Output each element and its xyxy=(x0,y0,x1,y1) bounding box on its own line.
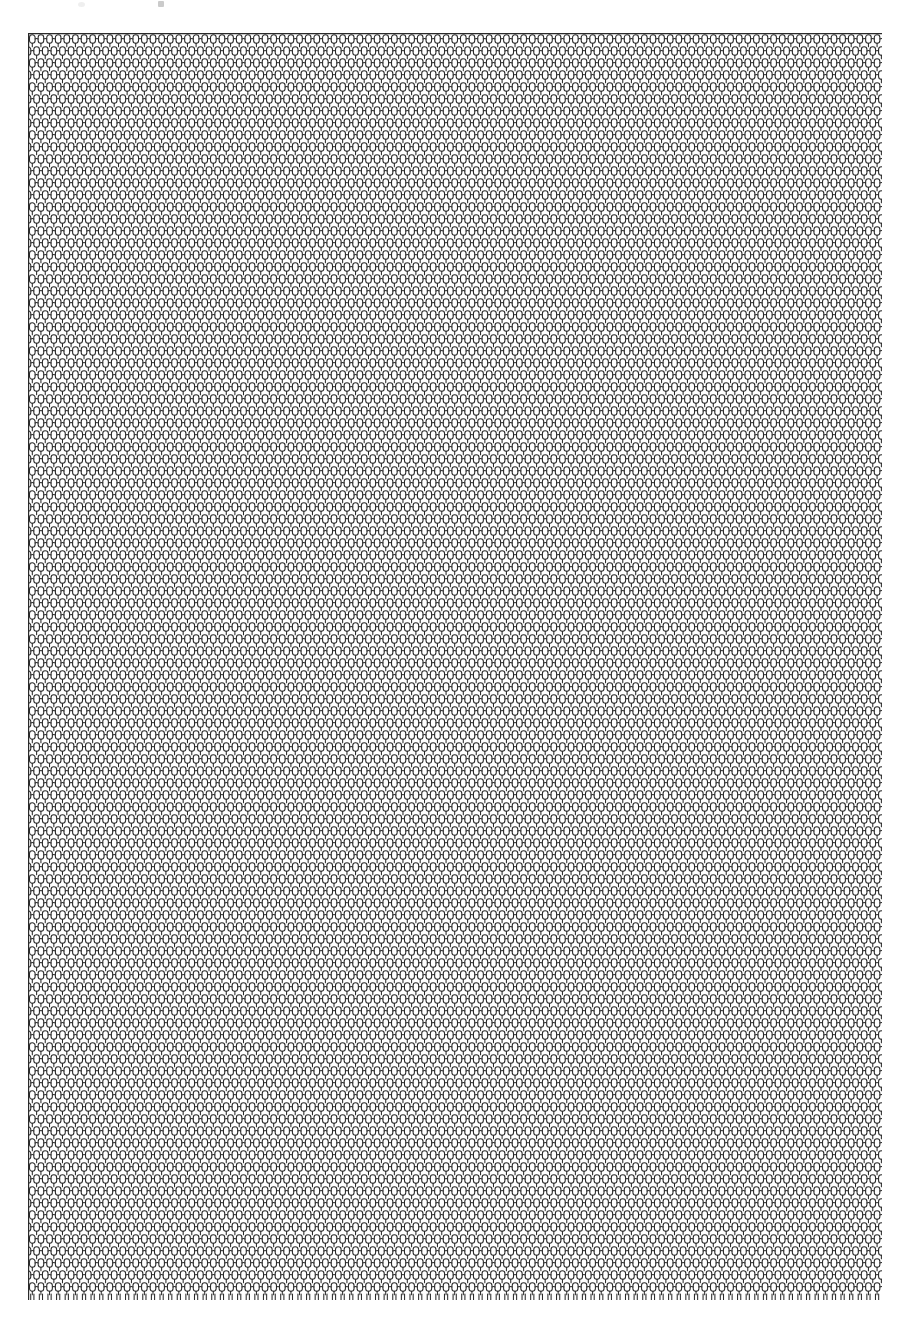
mesh-fabric-swatch xyxy=(28,33,882,1300)
scan-speck-right-icon xyxy=(158,1,164,7)
page-canvas xyxy=(0,0,905,1317)
scan-speck-left-icon xyxy=(78,2,85,7)
